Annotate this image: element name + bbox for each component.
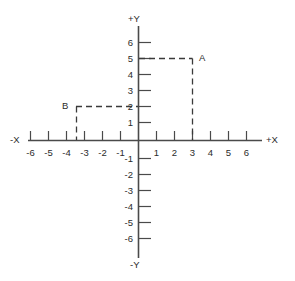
x-tick-label-1: 1 <box>154 147 159 158</box>
y-tick-label-4: 4 <box>128 69 133 80</box>
y-axis-ticks-negative <box>138 159 151 239</box>
x-axis-ticks-positive <box>157 131 247 141</box>
y-tick-label--3: -3 <box>125 185 133 196</box>
x-tick-label-4: 4 <box>208 147 213 158</box>
y-tick-label-2: 2 <box>128 101 133 112</box>
y-tick-label--1: -1 <box>125 153 133 164</box>
point-b-label: B <box>62 100 68 111</box>
y-tick-label-6: 6 <box>128 37 133 48</box>
x-tick-label-6: 6 <box>244 147 249 158</box>
point-a-label: A <box>199 52 206 63</box>
y-tick-labels-negative: -1 -2 -3 -4 -5 -6 <box>125 153 133 244</box>
axes-group <box>28 26 262 258</box>
x-tick-label--4: -4 <box>62 147 70 158</box>
y-tick-label-1: 1 <box>128 117 133 128</box>
y-tick-label--5: -5 <box>125 217 133 228</box>
x-tick-label-5: 5 <box>226 147 231 158</box>
point-a-guides <box>139 59 193 141</box>
y-axis-positive-label: +Y <box>128 13 141 24</box>
axis-name-labels: +Y -Y -X +X <box>10 13 279 270</box>
x-axis-positive-label: +X <box>266 134 279 145</box>
x-tick-label-3: 3 <box>190 147 195 158</box>
y-tick-label--4: -4 <box>125 201 133 212</box>
y-tick-label-5: 5 <box>128 53 133 64</box>
point-labels: A B <box>62 52 206 111</box>
x-axis-ticks-negative <box>31 131 121 141</box>
y-axis-negative-label: -Y <box>130 259 140 270</box>
y-tick-label--2: -2 <box>125 169 133 180</box>
x-axis-negative-label: -X <box>10 134 20 145</box>
y-tick-labels-positive: 6 5 4 3 2 1 <box>128 37 133 128</box>
x-tick-label--2: -2 <box>98 147 106 158</box>
y-tick-label--6: -6 <box>125 233 133 244</box>
x-tick-labels-positive: 1 2 3 4 5 6 <box>154 147 249 158</box>
y-axis-ticks-positive <box>138 43 151 123</box>
x-tick-label--5: -5 <box>44 147 52 158</box>
x-tick-labels-negative: -6 -5 -4 -3 -2 -1 <box>26 147 124 158</box>
y-tick-label-3: 3 <box>128 85 133 96</box>
coordinate-plane-diagram: -6 -5 -4 -3 -2 -1 1 2 3 4 5 6 6 5 4 3 2 … <box>0 0 295 281</box>
x-tick-label--6: -6 <box>26 147 34 158</box>
x-tick-label-2: 2 <box>172 147 177 158</box>
x-tick-label--1: -1 <box>116 147 124 158</box>
x-tick-label--3: -3 <box>80 147 88 158</box>
